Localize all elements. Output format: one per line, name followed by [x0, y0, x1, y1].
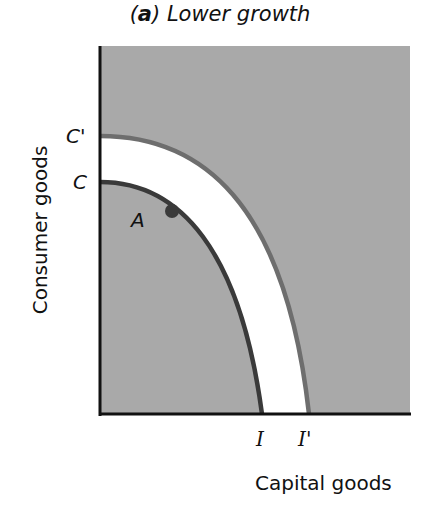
label-c: C — [73, 170, 87, 194]
ppf-plot — [0, 0, 440, 524]
label-i-prime: I' — [298, 427, 311, 451]
y-axis-label: Consumer goods — [28, 146, 52, 315]
point-a-marker — [165, 204, 179, 218]
label-point-a: A — [131, 208, 145, 232]
label-c-prime: C' — [66, 124, 85, 148]
x-axis-label: Capital goods — [255, 471, 392, 495]
label-i: I — [256, 427, 264, 451]
